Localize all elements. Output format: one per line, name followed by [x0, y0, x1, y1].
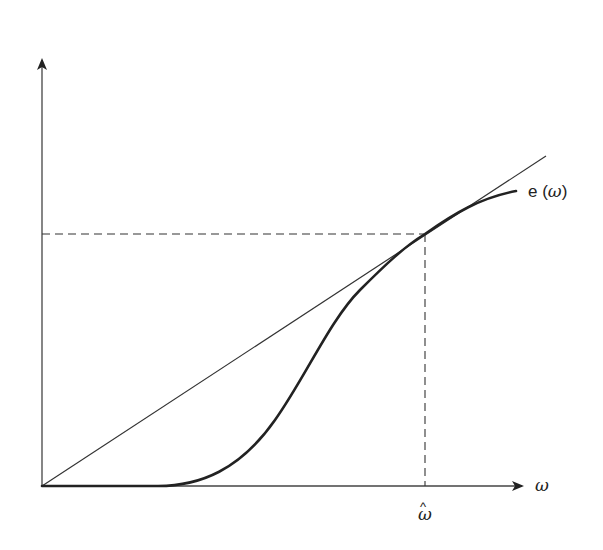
diagram-canvas: e (ω) ω ^ ω — [0, 0, 603, 550]
e-omega-curve — [42, 191, 516, 486]
x-axis-label: ω — [535, 475, 549, 495]
omega-hat-label: ω — [418, 504, 432, 524]
curve-label: e (ω) — [528, 181, 567, 201]
